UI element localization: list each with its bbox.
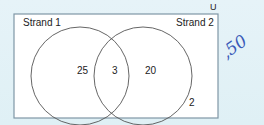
outside-count: 2 bbox=[189, 98, 195, 108]
set-label-strand-2: Strand 2 bbox=[176, 18, 214, 28]
intersection-count: 3 bbox=[112, 66, 118, 76]
strand-1-only-count: 25 bbox=[77, 66, 88, 76]
venn-diagram-stage: U Strand 1 Strand 2 25 3 20 2 ,50 bbox=[0, 0, 264, 125]
universe-label: U bbox=[210, 3, 217, 12]
set-label-strand-1: Strand 1 bbox=[23, 18, 61, 28]
strand-2-only-count: 20 bbox=[145, 66, 156, 76]
